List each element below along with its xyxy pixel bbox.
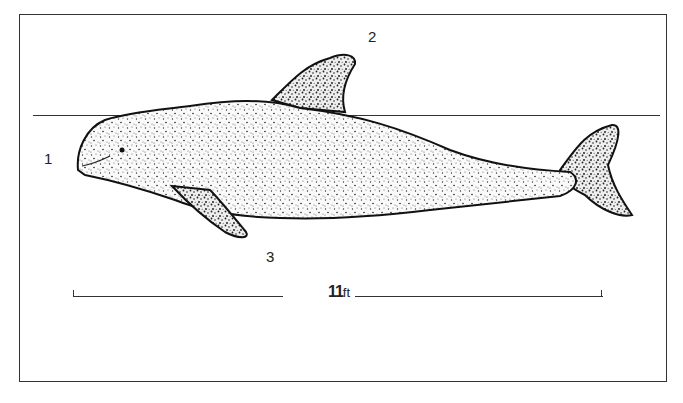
scale-label: 11ft <box>299 283 379 301</box>
label-2-dorsal-fin: 2 <box>368 28 376 45</box>
scale-tick-right <box>601 290 602 297</box>
eye <box>120 148 125 153</box>
label-1-head: 1 <box>44 150 52 167</box>
scale-value: 11 <box>328 283 343 300</box>
scale-bar-left <box>73 296 283 297</box>
scale-unit: ft <box>343 285 350 300</box>
label-3-pectoral-fin: 3 <box>266 248 274 265</box>
dolphin-illustration <box>0 0 683 403</box>
scale-bar-right <box>355 296 603 297</box>
body <box>78 101 576 219</box>
scale-bar: 11ft <box>73 289 603 303</box>
tail-fluke <box>560 125 632 216</box>
